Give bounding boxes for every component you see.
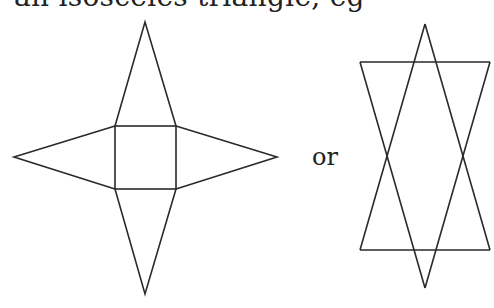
left-triangle [14,126,115,189]
nets-diagram [0,0,494,308]
down-triangle-right-edge [425,62,490,288]
or-label: or [312,143,338,171]
overlapping-triangles-figure [360,24,490,288]
up-triangle-left-edge [360,24,425,250]
down-triangle-left-edge [360,62,425,288]
bottom-triangle [115,189,176,294]
right-triangle [176,126,277,189]
square-base [115,126,176,189]
top-triangle [115,22,176,126]
up-triangle-right-edge [425,24,490,250]
star-net-figure [14,22,277,294]
